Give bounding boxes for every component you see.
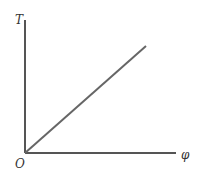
data-line [25,46,146,153]
origin-label: O [15,157,25,171]
x-axis-label: φ [181,148,190,162]
y-axis-label: T [15,13,24,27]
chart: T O φ [0,0,202,177]
